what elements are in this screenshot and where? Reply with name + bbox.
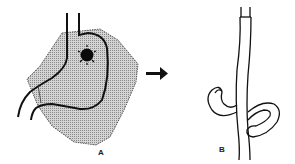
loop-left: [208, 87, 237, 115]
tube-left-wall: [236, 17, 240, 160]
arrow-icon: [146, 67, 168, 80]
diagram-canvas: [0, 0, 295, 164]
label-b: B: [219, 145, 225, 154]
shaded-region: [27, 29, 138, 145]
tube-right-wall: [247, 17, 251, 160]
label-a: A: [98, 148, 104, 157]
loop-right: [247, 103, 280, 137]
lesion-spot: [81, 49, 94, 62]
panel-a: [18, 13, 138, 145]
panel-b: [208, 7, 279, 160]
